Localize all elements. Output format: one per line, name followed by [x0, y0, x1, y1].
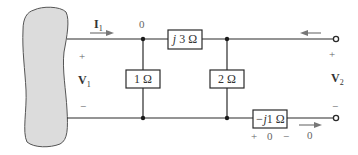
- terminal-top: [333, 36, 338, 41]
- voltage-v2-sub: 2: [340, 78, 344, 87]
- label-j3: j 3 Ω: [168, 33, 202, 45]
- label-2ohm: 2 Ω: [210, 73, 244, 85]
- voltage-v1-symbol: V: [78, 73, 87, 87]
- bottom-current-value: 0: [307, 130, 313, 141]
- top-current-value: 0: [139, 19, 145, 30]
- label-minus-j1-value: 1 Ω: [267, 112, 285, 126]
- port1-plus: +: [79, 51, 85, 62]
- voltage-v2-label: V2: [331, 72, 344, 87]
- minus-j1-plus: +: [251, 131, 257, 142]
- label-1ohm: 1 Ω: [126, 73, 160, 85]
- arrow-top-right-icon: [300, 30, 321, 36]
- minus-j1-minus: −: [283, 131, 289, 142]
- minus-j1-voltage-value: 0: [267, 131, 273, 142]
- current-i1-sub: 1: [99, 24, 103, 33]
- label-j3-prefix: j: [173, 32, 176, 46]
- label-j3-value: 3 Ω: [179, 32, 197, 46]
- voltage-v2-symbol: V: [331, 71, 340, 85]
- junction-dot: [225, 37, 229, 41]
- label-minus-j1-prefix: −j: [255, 112, 266, 126]
- arrow-bottom-right-icon: [299, 122, 322, 128]
- circuit-diagram: [0, 0, 358, 155]
- voltage-v1-sub: 1: [87, 80, 91, 89]
- voltage-v1-label: V1: [78, 74, 91, 89]
- port2-minus: −: [332, 101, 338, 112]
- network-blob: [23, 7, 68, 147]
- junction-dot: [141, 116, 145, 120]
- junction-dot: [225, 116, 229, 120]
- label-minus-j1: −j1 Ω: [253, 113, 287, 125]
- terminal-bottom: [333, 115, 338, 120]
- port1-minus: −: [80, 101, 86, 112]
- current-i1-label: I1: [94, 18, 103, 33]
- port2-plus: +: [329, 49, 335, 60]
- junction-dot: [141, 37, 145, 41]
